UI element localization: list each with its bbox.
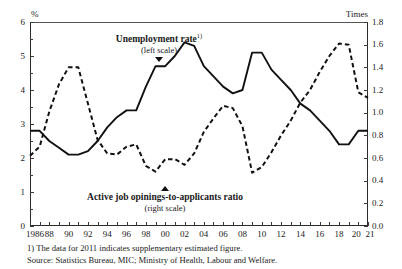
left-axis-minor-tick (30, 209, 33, 210)
x-axis-tick (78, 222, 79, 226)
x-axis-tick (358, 222, 359, 226)
x-axis-tick (117, 222, 118, 226)
annotation-unemployment-scale: (left scale) (79, 45, 239, 56)
left-axis-minor-tick (30, 73, 33, 74)
x-axis-tick-label: 21 (357, 230, 383, 239)
x-axis-tick (300, 222, 301, 226)
x-axis-tick (136, 222, 137, 226)
right-axis-tick (364, 45, 368, 46)
triangle-up-icon (161, 186, 169, 191)
right-axis-tick (364, 181, 368, 182)
right-axis-tick-label: 1.4 (372, 63, 400, 72)
annotation-unemployment: Unemployment rate1) (left scale) (79, 30, 239, 62)
x-axis-tick (185, 222, 186, 226)
left-axis-minor-tick (30, 141, 33, 142)
right-axis-tick-label: 0.4 (372, 176, 400, 185)
left-axis-tick-label: 1 (0, 188, 25, 197)
x-axis-tick (223, 222, 224, 226)
right-axis-tick-label: 0.8 (372, 131, 400, 140)
right-axis-tick-label: 1.0 (372, 108, 400, 117)
left-axis-tick-label: 3 (0, 120, 25, 129)
x-axis-tick (40, 222, 41, 226)
x-axis-tick (262, 222, 263, 226)
left-axis-tick (30, 192, 34, 193)
left-axis-minor-tick (30, 175, 33, 176)
x-axis-tick (175, 222, 176, 226)
right-axis-tick (364, 113, 368, 114)
source-line: Source: Statistics Bureau, MIC; Ministry… (27, 255, 277, 266)
x-axis-tick (320, 222, 321, 226)
x-axis-tick (88, 222, 89, 226)
left-axis-unit-label: % (31, 10, 39, 19)
right-axis-tick-label: 0.2 (372, 199, 400, 208)
left-axis-minor-tick (30, 39, 33, 40)
right-axis-tick-label: 1.8 (372, 18, 400, 27)
annotation-unemployment-title: Unemployment rate1) (79, 30, 239, 45)
x-axis-tick (252, 222, 253, 226)
x-axis-tick (146, 222, 147, 226)
footnote-1: 1) The data for 2011 indicates supplemen… (27, 243, 243, 254)
left-axis-tick (30, 158, 34, 159)
x-axis-tick (310, 222, 311, 226)
annotation-ratio-title: Active job opinings-to-applicants ratio (55, 192, 275, 203)
x-axis-tick (349, 222, 350, 226)
x-axis-tick (271, 222, 272, 226)
right-axis-tick-label: 0.6 (372, 154, 400, 163)
x-axis-tick (156, 222, 157, 226)
right-axis-tick (364, 22, 368, 23)
left-axis-tick-label: 2 (0, 154, 25, 163)
annotation-ratio: Active job opinings-to-applicants ratio … (55, 185, 275, 214)
x-axis-tick (194, 222, 195, 226)
left-axis-tick (30, 124, 34, 125)
chart-figure: % Times 6543210 1.81.61.41.21.00.80.60.4… (0, 0, 402, 269)
x-axis-tick (98, 222, 99, 226)
left-axis-tick-label: 6 (0, 18, 25, 27)
right-axis-tick (364, 158, 368, 159)
right-axis-tick (364, 203, 368, 204)
x-axis-tick (281, 222, 282, 226)
right-axis-tick-label: 1.2 (372, 86, 400, 95)
x-axis-tick (107, 222, 108, 226)
triangle-down-icon (155, 57, 163, 62)
x-axis-tick (329, 222, 330, 226)
left-axis-tick (30, 56, 34, 57)
left-axis-minor-tick (30, 107, 33, 108)
x-axis-tick (30, 222, 31, 226)
x-axis-tick (204, 222, 205, 226)
x-axis-tick (127, 222, 128, 226)
x-axis-tick (368, 222, 369, 226)
right-axis-tick (364, 90, 368, 91)
right-axis-tick (364, 226, 368, 227)
annotation-unemployment-text: Unemployment rate (116, 34, 197, 44)
left-axis-tick (30, 22, 34, 23)
left-axis-tick-label: 5 (0, 52, 25, 61)
x-axis-tick (339, 222, 340, 226)
x-axis-tick (49, 222, 50, 226)
x-axis-tick (69, 222, 70, 226)
x-axis-tick (165, 222, 166, 226)
footnote-marker: 1) (197, 32, 202, 39)
left-axis-tick (30, 226, 34, 227)
x-axis-tick (59, 222, 60, 226)
left-axis-tick-label: 4 (0, 86, 25, 95)
x-axis-tick (291, 222, 292, 226)
annotation-ratio-scale: (right scale) (55, 203, 275, 214)
left-axis-tick (30, 90, 34, 91)
x-axis-tick (213, 222, 214, 226)
right-axis-tick (364, 67, 368, 68)
right-axis-tick (364, 135, 368, 136)
right-axis-unit-label: Times (330, 10, 368, 19)
right-axis-tick-label: 1.6 (372, 40, 400, 49)
x-axis-tick (233, 222, 234, 226)
x-axis-tick (242, 222, 243, 226)
cropped-caption-edge (0, 0, 402, 4)
